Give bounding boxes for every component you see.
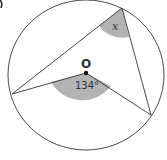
center-point [84,71,88,75]
center-label: O [81,57,91,71]
circle-diagram: O 134° x [0,0,167,160]
unknown-angle-label: x [112,20,119,33]
central-angle-label: 134° [75,80,99,91]
clipped-label-mark [0,0,2,8]
